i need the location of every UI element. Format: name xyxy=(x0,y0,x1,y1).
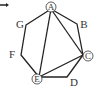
heptagon-outline xyxy=(21,9,83,77)
diagonal-A-E xyxy=(39,9,51,77)
diagonal-E-C xyxy=(39,55,83,77)
vertex-C: C xyxy=(83,51,93,61)
arrow-icon xyxy=(0,3,9,7)
svg-text:C: C xyxy=(85,51,91,61)
vertex-D-label: D xyxy=(70,76,78,88)
svg-text:E: E xyxy=(34,74,40,84)
vertex-G-label: G xyxy=(16,18,24,30)
svg-text:A: A xyxy=(48,2,55,12)
heptagon-diagram: A B C D E F G xyxy=(0,0,97,91)
vertex-F-label: F xyxy=(9,48,15,60)
vertex-E: E xyxy=(32,74,42,84)
vertex-B-label: B xyxy=(80,18,87,30)
vertex-A: A xyxy=(46,2,56,12)
